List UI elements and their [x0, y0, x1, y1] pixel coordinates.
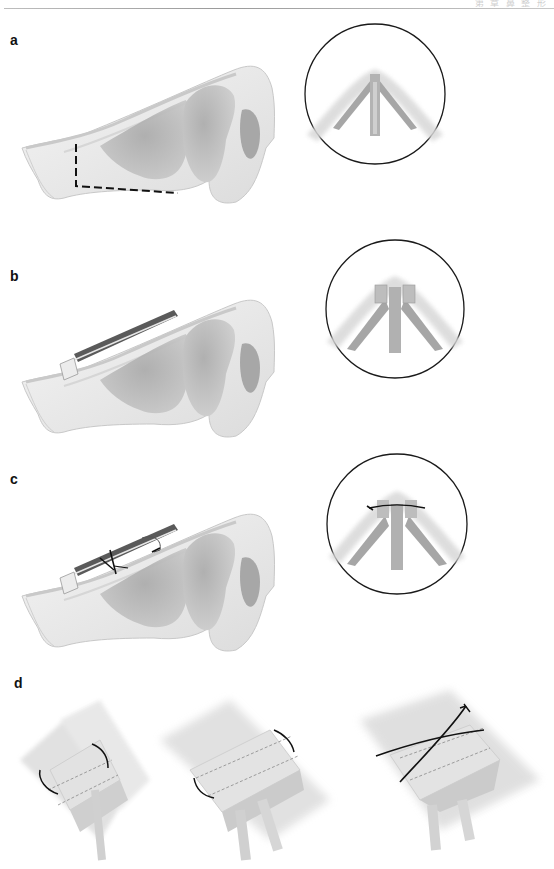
panel-c-inset — [327, 454, 467, 594]
panel-d-step-1 — [20, 700, 150, 860]
panel-a-lateral-view — [22, 66, 275, 203]
figure-illustration — [0, 0, 554, 869]
panel-b-inset — [326, 240, 464, 378]
panel-b-lateral-view — [22, 300, 275, 437]
panel-a-inset — [305, 24, 445, 164]
panel-d-step-3 — [360, 690, 540, 850]
panel-c-lateral-view — [22, 514, 275, 651]
panel-d-step-2 — [160, 700, 330, 860]
